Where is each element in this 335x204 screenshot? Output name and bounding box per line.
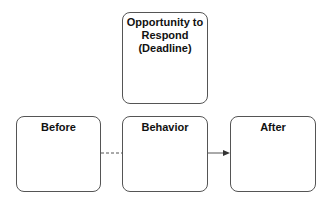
connectors xyxy=(0,0,335,204)
arrowhead-icon xyxy=(223,150,230,156)
